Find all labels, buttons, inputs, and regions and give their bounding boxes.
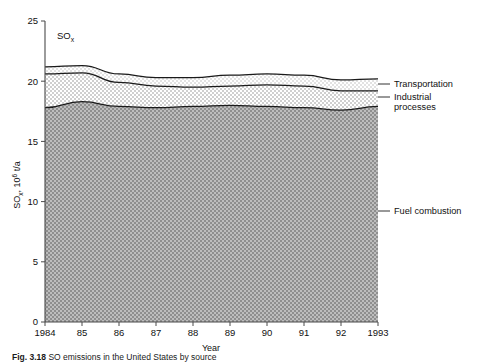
x-tick-label: 89 <box>225 327 236 338</box>
x-tick-label: 1984 <box>34 327 55 338</box>
y-tick-label: 10 <box>27 196 38 207</box>
y-tick-label: 5 <box>33 256 38 267</box>
y-axis-title: SOx, 106 t/a <box>11 161 24 209</box>
caption-number: Fig. 3.18 <box>12 352 46 362</box>
legend-label-fuel-combustion: Fuel combustion <box>394 206 461 216</box>
x-tick-label: 92 <box>336 327 347 338</box>
svg-text:SOx, 106 t/a: SOx, 106 t/a <box>11 161 24 209</box>
x-tick-label: 85 <box>77 327 88 338</box>
caption-body: SO emissions in the United States by sou… <box>48 352 216 362</box>
sox-emissions-area-chart: 0510152025 198485868788899091921993 SOx,… <box>0 0 480 364</box>
x-tick-label: 91 <box>299 327 310 338</box>
legend-label-transportation: Transportation <box>394 79 453 89</box>
x-tick-label: 86 <box>114 327 125 338</box>
y-tick-label: 20 <box>27 76 38 87</box>
y-tick-label: 15 <box>27 136 38 147</box>
figure-caption: Fig. 3.18 SO emissions in the United Sta… <box>12 352 217 363</box>
x-tick-label: 90 <box>262 327 273 338</box>
x-tick-label: 87 <box>151 327 162 338</box>
y-tick-label: 25 <box>27 15 38 26</box>
area-band-fuel-combustion <box>45 102 378 322</box>
stacked-area-bands <box>45 66 378 322</box>
legend-label-industrial-line1: Industrial <box>394 92 431 102</box>
y-tick-label: 0 <box>33 316 38 327</box>
figure-container: 0510152025 198485868788899091921993 SOx,… <box>0 0 480 364</box>
x-tick-label: 1993 <box>367 327 388 338</box>
x-tick-label: 88 <box>188 327 199 338</box>
legend-label-industrial-line2: processes <box>394 102 436 112</box>
